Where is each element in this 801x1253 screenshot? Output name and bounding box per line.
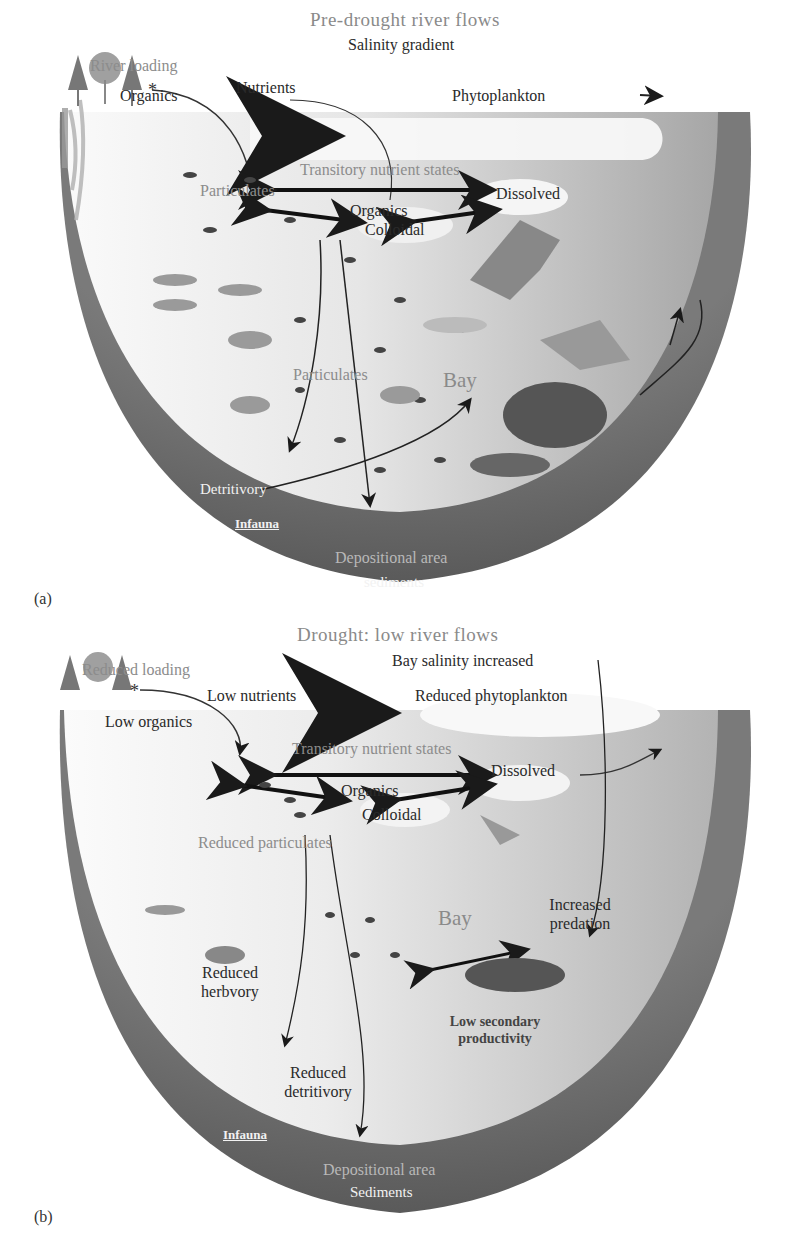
- infauna-label: Infauna: [235, 517, 279, 530]
- transitory-nutrient-states-label: Transitory nutrient states: [292, 741, 451, 757]
- svg-text:*: *: [130, 681, 139, 701]
- dissolved-label: Dissolved: [496, 186, 560, 202]
- panel-b: * Drought: low river flows Reduced loadi…: [0, 625, 801, 1253]
- infauna-label: Infauna: [223, 1128, 267, 1141]
- phytoplankton-label: Phytoplankton: [452, 88, 545, 104]
- fish-icon: [145, 905, 185, 915]
- reduced-phytoplankton-label: Reduced phytoplankton: [415, 688, 567, 704]
- fish-icon: [465, 958, 565, 992]
- particulates-label: Particulates: [200, 183, 275, 199]
- sediments-label: sediments: [364, 575, 424, 590]
- panel-a: * Pre-drought: [0, 0, 801, 620]
- reduced-herbivory-label: Reduced herbvory: [190, 965, 270, 1000]
- sediments-label: Sediments: [350, 1185, 413, 1200]
- salinity-gradient-label: Salinity gradient: [348, 37, 454, 53]
- depositional-area-label: Depositional area: [323, 1162, 435, 1178]
- panel-b-title: Drought: low river flows: [297, 625, 498, 644]
- particulates-mid-label: Particulates: [293, 367, 368, 383]
- fish-icon: [205, 946, 245, 964]
- organics-center-label: Organics: [341, 783, 398, 799]
- low-organics-label: Low organics: [105, 714, 192, 730]
- reduced-herbivory-line2: herbvory: [190, 984, 270, 1000]
- dissolved-label: Dissolved: [491, 763, 555, 779]
- river-loading-label: River loading: [90, 58, 178, 74]
- panel-b-letter: (b): [34, 1208, 53, 1226]
- reduced-detritivory-line1: Reduced: [268, 1065, 368, 1081]
- reduced-detritivory-line2: detritivory: [268, 1084, 368, 1100]
- increased-predation-line2: predation: [535, 916, 625, 932]
- bay-label: Bay: [438, 908, 472, 929]
- colloidal-label: Colloidal: [362, 807, 422, 823]
- increased-predation-label: Increased predation: [535, 897, 625, 932]
- panel-a-letter: (a): [34, 590, 52, 608]
- low-secondary-productivity-label: Low secondary productivity: [415, 1015, 575, 1046]
- reduced-loading-label: Reduced loading: [82, 662, 190, 678]
- reduced-herbivory-line1: Reduced: [190, 965, 270, 981]
- nutrients-label: Nutrients: [236, 80, 296, 96]
- grouper-fish-icon: [503, 382, 607, 448]
- panel-a-title: Pre-drought river flows: [310, 10, 500, 29]
- low-nutrients-label: Low nutrients: [207, 688, 296, 704]
- increased-predation-line1: Increased: [535, 897, 625, 913]
- bay-label: Bay: [443, 370, 477, 391]
- colloidal-label: Colloidal: [365, 222, 425, 238]
- transitory-nutrient-states-label: Transitory nutrient states: [300, 162, 459, 178]
- organics-label: Organics: [120, 88, 177, 104]
- low-secondary-line1: Low secondary: [415, 1015, 575, 1029]
- detritivory-label: Detritivory: [200, 482, 267, 497]
- reduced-detritivory-label: Reduced detritivory: [268, 1065, 368, 1100]
- depositional-area-label: Depositional area: [335, 550, 447, 566]
- reduced-particulates-label: Reduced particulates: [198, 835, 332, 851]
- bay-salinity-label: Bay salinity increased: [392, 653, 533, 669]
- low-secondary-line2: productivity: [415, 1032, 575, 1046]
- organics-center-label: Organics: [350, 203, 407, 219]
